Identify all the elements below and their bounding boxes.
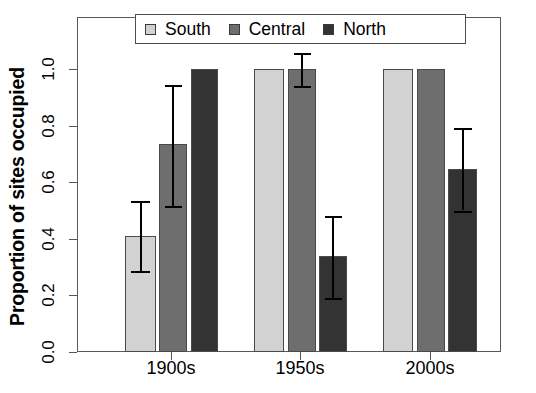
error-bar-cap-upper-central-1900s <box>165 85 182 87</box>
error-bar-cap-upper-north-1950s <box>325 216 342 218</box>
y-tick-mark <box>69 352 77 353</box>
y-tick-mark <box>69 239 77 240</box>
error-bar-stem-central-1950s <box>301 53 303 86</box>
legend-item-south: South <box>145 19 211 40</box>
error-bar-stem-central-1900s <box>172 85 174 207</box>
bar-central-2000s <box>417 69 445 352</box>
y-axis-title: Proportion of sites occupied <box>0 0 34 393</box>
error-bar-stem-north-2000s <box>462 128 464 210</box>
error-bar-cap-upper-north-2000s <box>454 128 472 130</box>
y-tick-mark <box>69 182 77 183</box>
error-bar-cap-lower-south-1900s <box>131 271 150 273</box>
y-tick-mark <box>69 69 77 70</box>
legend-swatch-central <box>229 24 240 35</box>
legend-label-south: South <box>165 19 211 40</box>
bar-south-2000s <box>383 69 413 352</box>
error-bar-stem-south-1900s <box>140 201 142 272</box>
x-tick-label: 1900s <box>121 358 221 379</box>
chart-legend: South Central North <box>135 14 466 44</box>
bar-south-1950s <box>254 69 284 352</box>
legend-item-central: Central <box>229 19 305 40</box>
error-bar-cap-upper-central-1950s <box>294 53 311 55</box>
y-tick-label: 0.2 <box>39 280 59 310</box>
legend-label-north: North <box>343 19 386 40</box>
legend-swatch-north <box>323 24 334 35</box>
plot-area <box>77 17 501 352</box>
chart-figure: Proportion of sites occupied 0.00.20.40.… <box>0 0 536 393</box>
y-tick-label: 0.0 <box>39 337 59 367</box>
bar-central-1950s <box>288 69 316 352</box>
legend-item-north: North <box>323 19 386 40</box>
error-bar-stem-north-1950s <box>332 216 334 298</box>
error-bar-cap-lower-central-1950s <box>294 86 311 88</box>
y-tick-mark <box>69 295 77 296</box>
error-bar-cap-lower-north-2000s <box>454 211 472 213</box>
error-bar-cap-lower-north-1950s <box>325 298 342 300</box>
legend-swatch-south <box>145 24 156 35</box>
error-bar-cap-upper-south-1900s <box>131 201 150 203</box>
error-bar-cap-lower-central-1900s <box>165 206 182 208</box>
x-tick-label: 1950s <box>250 358 350 379</box>
y-tick-mark <box>69 126 77 127</box>
bar-north-1900s <box>191 69 218 352</box>
y-tick-label: 0.8 <box>39 111 59 141</box>
x-tick-label: 2000s <box>380 358 480 379</box>
legend-label-central: Central <box>249 19 305 40</box>
y-tick-label: 0.6 <box>39 167 59 197</box>
y-tick-label: 0.4 <box>39 224 59 254</box>
y-tick-label: 1.0 <box>39 54 59 84</box>
